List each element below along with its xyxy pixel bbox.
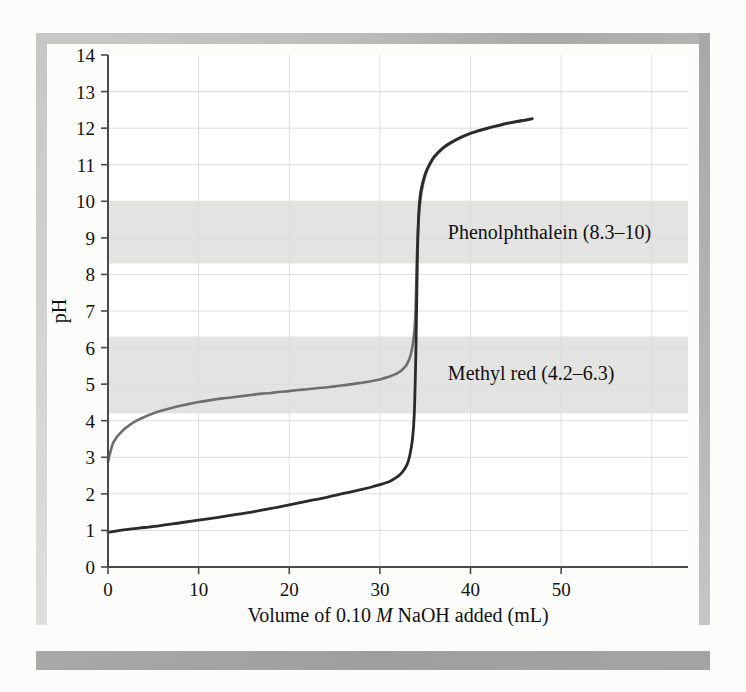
y-tick-label: 6 bbox=[86, 338, 96, 359]
y-tick-label: 7 bbox=[86, 301, 96, 322]
x-tick-label: 0 bbox=[103, 579, 113, 600]
y-tick-label: 11 bbox=[77, 155, 95, 176]
y-tick-label: 2 bbox=[86, 484, 96, 505]
titration-curve-figure: 01234567891011121314 01020304050 Phenolp… bbox=[0, 0, 746, 692]
band-label-methyl-red: Methyl red (4.2–6.3) bbox=[448, 362, 615, 385]
y-tick-label: 10 bbox=[76, 191, 95, 212]
x-tick-labels-group: 01020304050 bbox=[103, 579, 570, 600]
titration-chart: 01234567891011121314 01020304050 Phenolp… bbox=[0, 0, 746, 692]
y-tick-label: 0 bbox=[86, 557, 96, 578]
y-tick-label: 14 bbox=[76, 45, 96, 66]
y-tick-label: 13 bbox=[76, 82, 95, 103]
x-tick-label: 20 bbox=[280, 579, 299, 600]
x-tick-label: 30 bbox=[370, 579, 389, 600]
x-axis-title: Volume of 0.10 M NaOH added (mL) bbox=[247, 604, 548, 627]
y-tick-label: 12 bbox=[76, 118, 95, 139]
x-tick-label: 50 bbox=[552, 579, 571, 600]
band-label-phenolphthalein: Phenolphthalein (8.3–10) bbox=[448, 221, 651, 244]
y-tick-label: 4 bbox=[86, 411, 96, 432]
x-tick-label: 40 bbox=[461, 579, 480, 600]
x-tick-label: 10 bbox=[189, 579, 208, 600]
y-tick-label: 5 bbox=[86, 374, 96, 395]
y-tick-label: 9 bbox=[86, 228, 96, 249]
y-tick-labels-group: 01234567891011121314 bbox=[76, 45, 96, 578]
y-tick-label: 8 bbox=[86, 264, 96, 285]
y-axis-title: pH bbox=[48, 299, 71, 323]
y-tick-label: 3 bbox=[86, 447, 96, 468]
y-tick-label: 1 bbox=[86, 520, 96, 541]
